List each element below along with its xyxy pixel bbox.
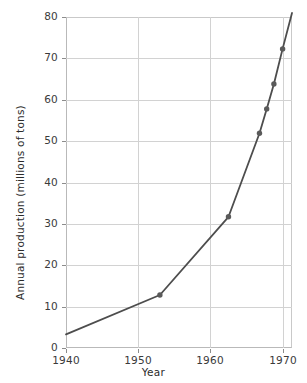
gridline-vertical <box>283 17 284 348</box>
y-axis-tick-label: 10 <box>44 300 58 312</box>
y-axis-tick-label: 80 <box>44 10 58 22</box>
y-axis-tickmark <box>62 17 66 18</box>
y-axis-tickmark <box>62 183 66 184</box>
y-axis-tick-label: 40 <box>44 176 58 188</box>
y-axis-tick-label: 60 <box>44 93 58 105</box>
y-axis-tick-label: 0 <box>51 341 58 353</box>
x-axis-tick-label: 1970 <box>259 354 307 366</box>
y-axis-tickmark <box>62 100 66 101</box>
y-axis-tick-label: 20 <box>44 258 58 270</box>
y-axis-tickmark <box>62 141 66 142</box>
gridline-horizontal <box>66 307 292 308</box>
y-axis-tick-label: 70 <box>44 51 58 63</box>
x-axis-tickmark <box>283 349 284 353</box>
gridline-horizontal <box>66 265 292 266</box>
x-axis-tick-label: 1950 <box>114 354 162 366</box>
gridline-horizontal <box>66 183 292 184</box>
y-axis-tick-label: 50 <box>44 134 58 146</box>
chart-container: 010203040506070801940195019601970 Year A… <box>0 0 307 383</box>
gridline-horizontal <box>66 58 292 59</box>
y-axis-tickmark <box>62 307 66 308</box>
x-axis-tickmark <box>66 349 67 353</box>
y-axis-title: Annual production (millions of tons) <box>14 105 26 300</box>
x-axis-tickmark <box>210 349 211 353</box>
x-axis-tickmark <box>138 349 139 353</box>
gridline-horizontal <box>66 141 292 142</box>
gridline-horizontal <box>66 224 292 225</box>
x-axis-title: Year <box>0 366 307 378</box>
x-axis-tick-label: 1940 <box>42 354 90 366</box>
y-axis-tick-label: 30 <box>44 217 58 229</box>
gridline-vertical <box>138 17 139 348</box>
x-axis-tick-label: 1960 <box>186 354 234 366</box>
y-axis-tickmark <box>62 58 66 59</box>
gridline-vertical <box>210 17 211 348</box>
y-axis-tickmark <box>62 224 66 225</box>
y-axis-tickmark <box>62 265 66 266</box>
gridline-horizontal <box>66 100 292 101</box>
